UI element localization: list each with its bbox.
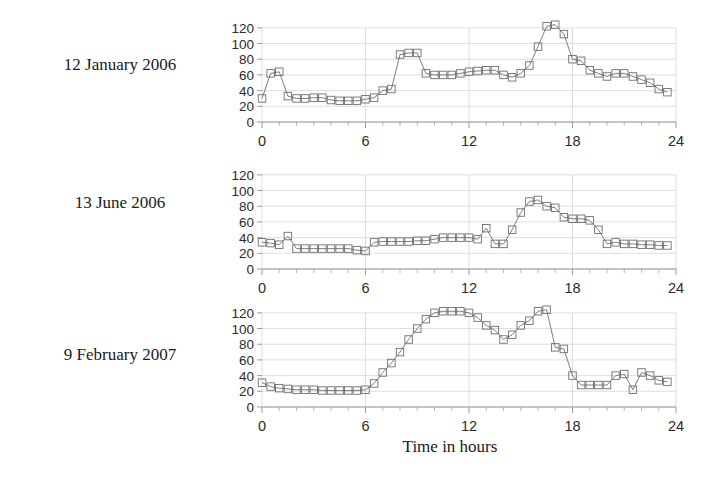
y-tick-label: 40 <box>239 231 254 246</box>
y-tick-label: 120 <box>231 168 254 183</box>
plot-area-2: 02040608010012006121824 <box>216 155 696 300</box>
panel-label-3: 9 February 2007 <box>20 345 220 365</box>
y-tick-label: 60 <box>239 68 254 83</box>
data-line <box>262 310 667 391</box>
panel-9-february-2007: 9 February 2007 02040608010012006121824 … <box>0 293 706 484</box>
line-chart-1: 02040608010012006121824 <box>216 8 696 153</box>
x-tick-label: 24 <box>668 133 684 149</box>
plot-area-1: 02040608010012006121824 <box>216 8 696 153</box>
y-tick-label: 40 <box>239 369 254 384</box>
data-line <box>262 200 667 251</box>
y-tick-label: 100 <box>231 322 254 337</box>
x-tick-label: 6 <box>361 418 369 434</box>
panel-13-june-2006: 13 June 2006 02040608010012006121824 <box>0 155 706 290</box>
y-tick-label: 40 <box>239 84 254 99</box>
line-chart-3: 02040608010012006121824 <box>216 293 696 438</box>
y-tick-label: 120 <box>231 306 254 321</box>
y-tick-label: 20 <box>239 384 254 399</box>
y-tick-label: 60 <box>239 353 254 368</box>
figure-root: 12 January 2006 02040608010012006121824 … <box>0 0 706 484</box>
x-tick-label: 0 <box>258 418 266 434</box>
data-point-marker <box>664 378 672 386</box>
y-tick-label: 20 <box>239 99 254 114</box>
y-tick-label: 20 <box>239 246 254 261</box>
plot-area-3: 02040608010012006121824 <box>216 293 696 438</box>
y-tick-label: 80 <box>239 199 254 214</box>
y-tick-label: 0 <box>246 400 254 415</box>
x-tick-label: 6 <box>361 133 369 149</box>
y-tick-label: 80 <box>239 337 254 352</box>
x-tick-label: 12 <box>461 418 477 434</box>
y-tick-label: 120 <box>231 21 254 36</box>
y-tick-label: 0 <box>246 262 254 277</box>
data-line <box>262 25 667 101</box>
y-tick-label: 0 <box>246 115 254 130</box>
x-tick-label: 24 <box>668 418 684 434</box>
panel-label-1: 12 January 2006 <box>20 55 220 75</box>
x-tick-label: 0 <box>258 133 266 149</box>
line-chart-2: 02040608010012006121824 <box>216 155 696 300</box>
y-tick-label: 80 <box>239 52 254 67</box>
y-tick-label: 100 <box>231 184 254 199</box>
panel-label-2: 13 June 2006 <box>20 193 220 213</box>
y-tick-label: 60 <box>239 215 254 230</box>
y-tick-label: 100 <box>231 37 254 52</box>
panel-12-january-2006: 12 January 2006 02040608010012006121824 <box>0 0 706 155</box>
x-tick-label: 18 <box>564 133 580 149</box>
x-tick-label: 12 <box>461 133 477 149</box>
x-axis-title: Time in hours <box>330 437 570 457</box>
x-tick-label: 18 <box>564 418 580 434</box>
